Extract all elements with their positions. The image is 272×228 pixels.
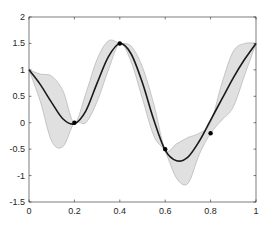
x-tick-label: 0.6 [159,206,172,216]
y-tick-label: 1 [20,65,25,75]
y-tick-label: 0.5 [12,91,25,101]
observation-point [118,41,122,45]
y-tick-label: -1.5 [9,197,25,207]
observation-point [208,131,212,135]
observation-point [163,147,167,151]
y-tick-label: 2 [20,12,25,22]
y-tick-label: -1 [17,171,25,181]
y-tick-labels: -1.5-1-0.500.511.52 [9,12,25,207]
gp-regression-chart: 00.20.40.60.81 -1.5-1-0.500.511.52 [0,0,272,228]
y-tick-label: -0.5 [9,144,25,154]
x-tick-label: 0 [26,206,31,216]
confidence-band [29,40,256,185]
band-area [29,40,256,185]
y-tick-label: 0 [20,118,25,128]
x-tick-label: 1 [253,206,258,216]
x-tick-label: 0.2 [68,206,81,216]
x-tick-label: 0.4 [114,206,127,216]
x-tick-labels: 00.20.40.60.81 [26,206,258,216]
x-tick-label: 0.8 [204,206,217,216]
y-tick-label: 1.5 [12,38,25,48]
observation-point [72,121,76,125]
